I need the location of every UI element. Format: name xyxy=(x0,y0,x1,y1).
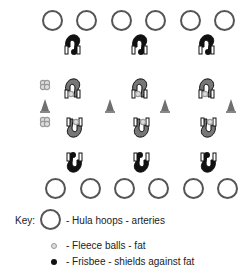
player-frisbee-icon xyxy=(199,152,219,174)
cone-icon xyxy=(105,99,115,113)
key-fleece-ball-label: - Fleece balls - fat xyxy=(66,240,145,252)
hula-hoop-icon xyxy=(114,178,135,199)
hula-hoop-icon xyxy=(76,10,97,31)
key-hula-hoop-icon xyxy=(40,209,61,230)
player-fleece-icon xyxy=(199,117,219,139)
key-frisbee-icon xyxy=(51,259,57,265)
hula-hoop-icon xyxy=(42,10,63,31)
hula-hoop-icon xyxy=(148,178,169,199)
player-frisbee-icon xyxy=(65,152,85,174)
fleece-ball-cluster-icon xyxy=(39,114,51,126)
activity-diagram xyxy=(0,0,251,273)
hula-hoop-icon xyxy=(45,178,66,199)
hula-hoop-icon xyxy=(180,10,201,31)
player-fleece-icon xyxy=(132,117,152,139)
key-hula-hoop-label: - Hula hoops - arteries xyxy=(66,215,165,227)
player-frisbee-icon xyxy=(129,33,149,55)
player-fleece-icon xyxy=(196,77,216,99)
key-title: Key: xyxy=(15,215,35,227)
hula-hoop-icon xyxy=(214,10,235,31)
hula-hoop-icon xyxy=(111,10,132,31)
hula-hoop-icon xyxy=(80,178,101,199)
cone-icon xyxy=(160,99,170,113)
cone-icon xyxy=(40,99,50,113)
player-fleece-icon xyxy=(129,77,149,99)
fleece-ball-cluster-icon xyxy=(39,77,51,89)
hula-hoop-icon xyxy=(145,10,166,31)
cone-icon xyxy=(226,99,236,113)
player-fleece-icon xyxy=(62,77,82,99)
player-frisbee-icon xyxy=(196,33,216,55)
hula-hoop-icon xyxy=(217,178,238,199)
player-fleece-icon xyxy=(65,117,85,139)
player-frisbee-icon xyxy=(132,152,152,174)
hula-hoop-icon xyxy=(183,178,204,199)
key-frisbee-label: - Frisbee - shields against fat xyxy=(66,256,194,268)
key-fleece-ball-icon xyxy=(51,243,57,249)
player-frisbee-icon xyxy=(62,33,82,55)
